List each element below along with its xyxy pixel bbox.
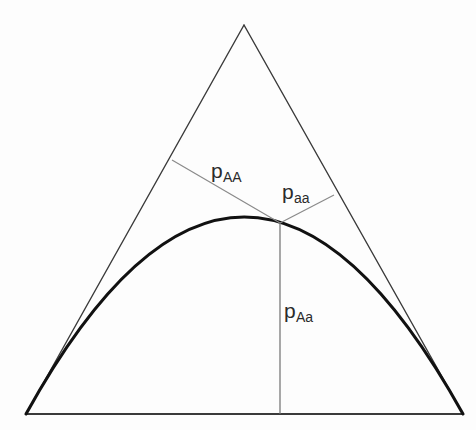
label-p-AA: pAA — [211, 160, 242, 181]
de-finetti-diagram-svg — [0, 0, 476, 430]
label-p-aa: paa — [282, 181, 309, 202]
figure-canvas: pAA paa pAa — [0, 0, 476, 430]
label-p-Aa: pAa — [284, 300, 313, 321]
triangle-outline — [26, 25, 463, 414]
triangle-right-edge — [244, 25, 463, 414]
label-p-AA-base: p — [211, 159, 223, 182]
label-p-aa-subscript: aa — [294, 190, 310, 206]
label-p-AA-subscript: AA — [223, 169, 242, 185]
triangle-left-edge — [26, 25, 244, 414]
label-p-Aa-base: p — [284, 299, 296, 322]
label-p-Aa-subscript: Aa — [296, 309, 313, 325]
hardy-weinberg-parabola — [26, 217, 463, 414]
label-p-aa-base: p — [282, 180, 294, 203]
